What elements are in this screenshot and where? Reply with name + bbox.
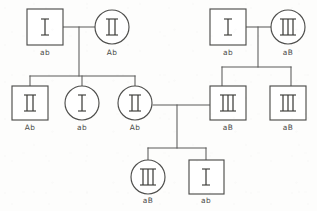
individual-III-2[interactable]: ab bbox=[189, 160, 224, 205]
symbol-roman-III bbox=[280, 19, 296, 35]
individual-I-3[interactable]: ab bbox=[210, 9, 246, 57]
symbol-roman-III bbox=[220, 95, 236, 111]
genotype-label-I-4: aB bbox=[283, 48, 293, 57]
female-circle-II-3[interactable] bbox=[118, 86, 152, 120]
male-square-II-1[interactable] bbox=[12, 86, 48, 120]
genotype-label-II-3: Ab bbox=[130, 123, 141, 132]
genotype-label-II-1: Ab bbox=[25, 123, 36, 132]
individual-II-1[interactable]: Ab bbox=[12, 86, 48, 132]
individual-II-4[interactable]: aB bbox=[210, 86, 246, 132]
generation-2: Ab ab Ab bbox=[12, 86, 306, 132]
individual-II-3[interactable]: Ab bbox=[118, 86, 152, 132]
genotype-label-III-2: ab bbox=[201, 196, 211, 205]
generation-1: ab Ab ab bbox=[27, 9, 305, 57]
genotype-label-III-1: aB bbox=[143, 196, 153, 205]
symbol-roman-III bbox=[280, 95, 296, 111]
individual-II-2[interactable]: ab bbox=[65, 86, 99, 132]
individual-I-2[interactable]: Ab bbox=[95, 10, 129, 57]
genotype-label-II-2: ab bbox=[77, 123, 87, 132]
individual-I-1[interactable]: ab bbox=[27, 9, 63, 57]
individual-I-4[interactable]: aB bbox=[271, 10, 305, 57]
symbol-roman-III bbox=[140, 169, 156, 185]
genotype-label-I-1: ab bbox=[40, 48, 50, 57]
individual-II-5[interactable]: aB bbox=[270, 86, 306, 132]
female-circle-I-2[interactable] bbox=[95, 10, 129, 44]
generation-3: aB ab bbox=[131, 160, 224, 205]
genotype-label-I-2: Ab bbox=[107, 48, 118, 57]
pedigree-diagram: ab Ab ab bbox=[0, 0, 317, 211]
pedigree-svg: ab Ab ab bbox=[0, 0, 317, 211]
individual-III-1[interactable]: aB bbox=[131, 160, 165, 205]
genotype-label-II-5: aB bbox=[283, 123, 293, 132]
genotype-label-II-4: aB bbox=[223, 123, 233, 132]
genotype-label-I-3: ab bbox=[223, 48, 233, 57]
